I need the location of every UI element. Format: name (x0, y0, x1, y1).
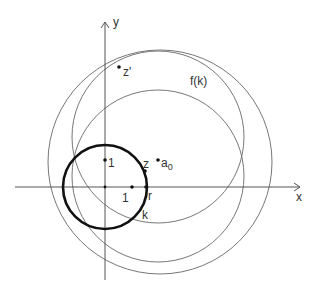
point-z-prime (117, 65, 121, 69)
unit-x-label: 1 (122, 192, 129, 204)
outer-circle (48, 50, 272, 274)
r-label: r (148, 190, 152, 202)
point-a0 (156, 158, 160, 162)
a0-subscript: 0 (168, 162, 173, 172)
a0-label: a0 (161, 157, 173, 172)
image-circle-lower (72, 90, 244, 262)
a0-base: a (161, 156, 168, 170)
x-axis-label: x (296, 191, 302, 203)
complex-plane-diagram (0, 0, 330, 291)
z-label: z (143, 158, 149, 170)
point-unit-y (103, 158, 107, 162)
point-origin (104, 186, 107, 189)
fk-label: f(k) (190, 75, 207, 87)
image-circle-upper (72, 51, 244, 223)
z-prime-label: z' (123, 66, 131, 78)
point-unit-x (130, 185, 134, 189)
unit-y-label: 1 (108, 157, 115, 169)
y-axis-label: y (113, 16, 119, 28)
k-label: k (142, 209, 148, 221)
